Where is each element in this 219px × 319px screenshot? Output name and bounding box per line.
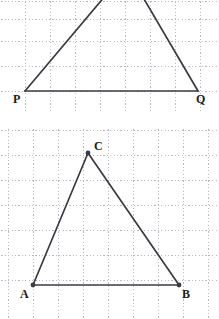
geometry-worksheet: PQ ABC <box>0 0 219 319</box>
vertex-label-q: Q <box>196 93 205 105</box>
vertex-label-b: B <box>182 288 190 300</box>
vertex-label-c: C <box>94 140 103 152</box>
triangle-pq-panel: PQ <box>0 0 219 113</box>
vertex-label-p: P <box>13 93 20 105</box>
vertex-label-a: A <box>20 288 29 300</box>
triangle-abc-panel: ABC <box>0 128 219 319</box>
triangle-abc-labels: ABC <box>0 128 219 319</box>
triangle-pq-labels: PQ <box>0 0 219 113</box>
